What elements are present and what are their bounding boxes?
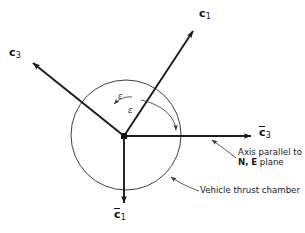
leader-vehicle-thrust-chamber: [171, 177, 199, 191]
overbar-glyph: [259, 126, 265, 127]
label-c-bar-three-base: c: [259, 126, 266, 139]
label-c-three-base: c: [9, 46, 16, 59]
epsilon-angle-arc-upper: [114, 97, 132, 104]
label-c-one-base: c: [199, 7, 206, 20]
east-symbol: E: [251, 157, 257, 167]
annotation-axis-line-two: N, E plane: [238, 158, 302, 168]
plane-word: plane: [260, 157, 284, 167]
diagram-canvas: [0, 0, 305, 233]
label-c-bar-one-subscript: 1: [121, 213, 126, 222]
leader-axis-parallel: [212, 140, 236, 158]
label-c-bar-one: c1: [114, 209, 126, 222]
label-c-three: c3: [9, 47, 21, 60]
annotation-vehicle-thrust-chamber: Vehicle thrust chamber: [200, 186, 300, 196]
label-c-bar-three: c3: [259, 127, 271, 140]
c-one-axis-arrow: [124, 31, 193, 136]
thrust-chamber-diagram: c1 c3 c3 c1 ε ε Axis parallel to N, E pl…: [0, 0, 305, 233]
epsilon-angle-label-lower: ε: [128, 106, 133, 116]
label-c-bar-three-subscript: 3: [266, 131, 271, 140]
annotation-axis-parallel-to-plane: Axis parallel to N, E plane: [238, 148, 302, 168]
c-three-axis-arrow: [33, 63, 124, 136]
label-c-bar-one-base: c: [114, 208, 121, 221]
label-c-one-subscript: 1: [206, 12, 211, 21]
label-c-bar-one-base-wrap: c: [114, 209, 121, 222]
overbar-glyph: [114, 208, 120, 209]
epsilon-angle-arc-lower: [141, 100, 176, 130]
comma-symbol: ,: [245, 157, 248, 167]
label-c-three-subscript: 3: [16, 51, 21, 60]
label-c-bar-three-base-wrap: c: [259, 127, 266, 140]
origin-point: [121, 133, 127, 139]
epsilon-angle-label-upper: ε: [118, 92, 123, 102]
label-c-one: c1: [199, 8, 211, 21]
